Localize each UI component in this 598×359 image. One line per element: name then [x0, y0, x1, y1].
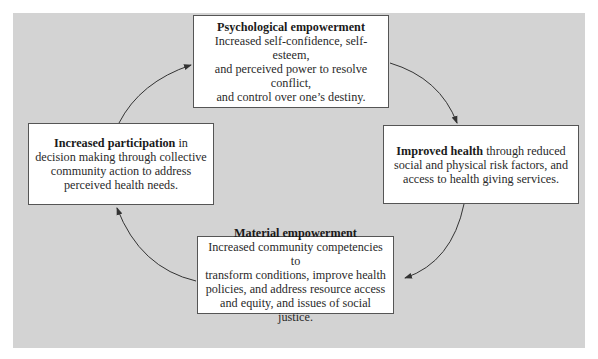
node-line: and equity, and issues of social justice…	[202, 296, 389, 324]
arrow-health-to-material	[405, 204, 464, 278]
node-line: Increased community competencies to	[202, 240, 389, 268]
node-line: access to health giving services.	[403, 172, 559, 186]
node-line: decision making through collective	[35, 150, 207, 164]
node-line: Increased self-confidence, self-esteem,	[198, 34, 384, 62]
node-psychological-empowerment: Psychological empowerment Increased self…	[193, 15, 389, 108]
node-improved-health: Improved health through reduced social a…	[383, 125, 579, 204]
node-material-empowerment: Material empowerment Increased community…	[197, 236, 394, 314]
node-line: community action to address	[51, 164, 191, 178]
node-first-line: Improved health through reduced	[396, 144, 565, 158]
node-title-suffix: through reduced	[483, 144, 566, 158]
arrow-participation-to-psychological	[119, 65, 191, 123]
node-line: transform conditions, improve health	[205, 268, 386, 282]
node-line: social and physical risk factors, and	[394, 158, 568, 172]
node-line: perceived health needs.	[64, 178, 178, 192]
arrow-material-to-participation	[117, 208, 196, 281]
node-line: and perceived power to resolve conflict,	[198, 62, 384, 90]
arrow-psychological-to-health	[390, 63, 457, 123]
node-line: policies, and address resource access	[206, 282, 386, 296]
node-title: Material empowerment	[234, 226, 357, 240]
node-title: Improved health	[396, 144, 483, 158]
node-title-suffix: in	[175, 136, 188, 150]
node-first-line: Increased participation in	[54, 136, 188, 150]
node-increased-participation: Increased participation in decision maki…	[28, 123, 214, 205]
node-line: and control over one’s destiny.	[216, 90, 365, 104]
node-title: Increased participation	[54, 136, 175, 150]
node-title: Psychological empowerment	[217, 20, 365, 34]
